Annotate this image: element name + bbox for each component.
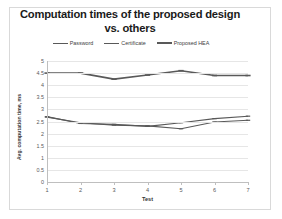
x-axis-tick-label: 6 bbox=[207, 187, 223, 193]
legend-label-certificate: Certificate bbox=[121, 40, 145, 46]
x-axis-tick-label: 3 bbox=[106, 187, 122, 193]
x-axis-tick-mark bbox=[215, 182, 216, 185]
plot-area bbox=[47, 61, 248, 182]
gridline bbox=[47, 134, 248, 135]
y-axis-tick-label: 5 bbox=[26, 58, 44, 64]
legend-swatch-password bbox=[53, 43, 68, 44]
y-axis-tick-label: 1.5 bbox=[26, 143, 44, 149]
y-axis-tick-label: 2 bbox=[26, 131, 44, 137]
gridline bbox=[47, 85, 248, 86]
y-axis-tick-label: 0.5 bbox=[26, 167, 44, 173]
legend-item-certificate[interactable]: Certificate bbox=[104, 40, 145, 46]
y-axis-tick-label: 3 bbox=[26, 106, 44, 112]
gridline bbox=[47, 73, 248, 74]
x-axis-tick-mark bbox=[148, 182, 149, 185]
legend-label-proposed-hea: Proposed HEA bbox=[174, 40, 210, 46]
y-axis-tick-label: 3.5 bbox=[26, 94, 44, 100]
legend-swatch-certificate bbox=[104, 43, 119, 44]
gridline bbox=[47, 61, 248, 62]
x-axis-tick-mark bbox=[81, 182, 82, 185]
legend-item-password[interactable]: Password bbox=[53, 40, 94, 46]
x-axis-tick-label: 5 bbox=[173, 187, 189, 193]
chart-title-line-1: Computation times of the proposed design bbox=[14, 7, 246, 21]
legend-swatch-proposed-hea bbox=[157, 42, 172, 44]
x-axis-title: Test bbox=[47, 196, 248, 202]
gridline bbox=[47, 170, 248, 171]
x-axis-tick-mark bbox=[114, 182, 115, 185]
gridline bbox=[47, 109, 248, 110]
legend-item-proposed-hea[interactable]: Proposed HEA bbox=[157, 40, 210, 46]
legend-label-password: Password bbox=[70, 40, 94, 46]
y-axis-tick-label: 1 bbox=[26, 155, 44, 161]
gridline bbox=[47, 158, 248, 159]
x-axis-tick-label: 7 bbox=[240, 187, 256, 193]
y-axis-tick-label: 2.5 bbox=[26, 119, 44, 125]
x-axis-tick-mark bbox=[248, 182, 249, 185]
x-axis-tick-label: 4 bbox=[140, 187, 156, 193]
y-axis-tick-label: 4.5 bbox=[26, 70, 44, 76]
gridline bbox=[47, 97, 248, 98]
x-axis-tick-label: 1 bbox=[39, 187, 55, 193]
y-axis-tick-label: 4 bbox=[26, 82, 44, 88]
x-axis-tick-label: 2 bbox=[73, 187, 89, 193]
y-axis-tick-label: 0 bbox=[26, 179, 44, 185]
y-axis-line bbox=[47, 61, 48, 182]
chart-title-line-2: vs. others bbox=[14, 21, 246, 35]
chart-title: Computation times of the proposed design… bbox=[14, 7, 246, 35]
gridline bbox=[47, 146, 248, 147]
x-axis-tick-mark bbox=[181, 182, 182, 185]
chart-legend: Password Certificate Proposed HEA bbox=[14, 40, 248, 46]
gridline bbox=[47, 122, 248, 123]
x-axis-tick-mark bbox=[47, 182, 48, 185]
